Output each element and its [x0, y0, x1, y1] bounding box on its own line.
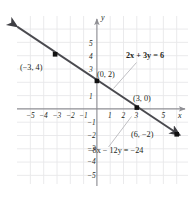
x-tick-label-neg2: −2 — [66, 112, 75, 119]
y-tick-label-1: 1 — [89, 93, 93, 100]
point-label-6-neg2: (6, −2) — [131, 131, 153, 139]
point-marker-6-neg2 — [174, 132, 179, 137]
x-tick-label-neg3: −3 — [53, 112, 62, 119]
point-marker-3-0 — [135, 105, 140, 110]
y-tick-label-neg4: −4 — [87, 158, 96, 165]
x-tick-label-neg4: −4 — [39, 112, 48, 119]
x-tick-label-3: 3 — [135, 112, 139, 119]
y-tick-label-4: 4 — [89, 53, 93, 60]
point-label-0-2: (0, 2) — [97, 71, 115, 79]
data-points — [53, 52, 179, 137]
equation-label-secondary: −8x − 12y = −24 — [88, 147, 143, 155]
point-marker-0-2 — [95, 79, 100, 84]
y-tick-label-neg1: −1 — [87, 119, 96, 126]
x-tick-label-5: 5 — [162, 112, 166, 119]
graph-canvas — [0, 0, 194, 198]
point-marker-neg3-4 — [53, 52, 58, 57]
x-axis-label: x — [178, 112, 182, 120]
y-tick-label-neg2: −2 — [87, 132, 96, 139]
coordinate-plane-figure: x y −5 −4 −3 −2 −1 1 2 3 5 5 4 3 1 −1 −2… — [0, 0, 194, 198]
y-tick-label-5: 5 — [89, 40, 93, 47]
y-tick-label-3: 3 — [89, 66, 93, 73]
leader-line-equation-bottom — [109, 117, 132, 148]
grid-lines — [17, 16, 188, 184]
x-tick-label-neg5: −5 — [26, 112, 35, 119]
equation-label-primary: 2x + 3y = 6 — [126, 52, 164, 60]
y-tick-label-neg5: −5 — [87, 172, 96, 179]
x-tick-label-1: 1 — [108, 112, 112, 119]
point-label-3-0: (3, 0) — [133, 95, 151, 103]
point-label-neg3-4: (−3, 4) — [20, 64, 42, 72]
x-tick-label-2: 2 — [122, 112, 126, 119]
y-axis-label: y — [101, 14, 105, 22]
leader-line-equation-top — [114, 63, 137, 89]
